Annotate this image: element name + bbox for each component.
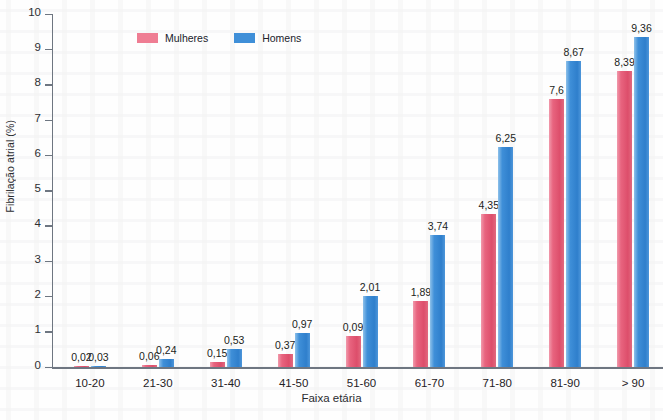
chart-legend: Mulheres Homens [137, 32, 301, 44]
y-axis-tick: 9 [45, 49, 52, 50]
bar-value-label: 0,53 [224, 334, 244, 346]
bar-homens[interactable]: 8,67 [566, 61, 581, 367]
y-axis-line [52, 14, 53, 368]
bar-homens[interactable]: 6,25 [498, 147, 513, 368]
bar-chart: Fibrilação atrial (%) Faixa etária 01234… [0, 0, 663, 420]
bar-value-label: 1,89 [411, 286, 431, 298]
bar-mulheres[interactable]: 0,09 [346, 336, 361, 368]
legend-label-mulheres: Mulheres [165, 32, 208, 44]
x-axis-tick-label: 51-60 [347, 377, 376, 389]
x-axis-tick-label: 31-40 [211, 377, 240, 389]
bar-group: 7,68,6781-90 [549, 14, 581, 367]
bar-group: 1,893,7461-70 [413, 14, 445, 367]
bar-group: 0,092,0151-60 [346, 14, 378, 367]
bar-mulheres[interactable]: 1,89 [413, 301, 428, 368]
bar-mulheres[interactable]: 0,02 [74, 366, 89, 367]
x-axis-tick-label: > 90 [622, 377, 645, 389]
y-axis-tick-label: 9 [35, 41, 41, 53]
bar-mulheres[interactable]: 0,06 [142, 365, 157, 367]
bar-mulheres[interactable]: 0,15 [210, 362, 225, 367]
y-axis-tick-label: 8 [35, 76, 41, 88]
y-axis-tick: 5 [45, 190, 52, 191]
x-axis-tick-label: 61-70 [415, 377, 444, 389]
bar-mulheres[interactable]: 4,35 [481, 214, 496, 368]
x-axis-tick-label: 71-80 [483, 377, 512, 389]
bar-value-label: 4,35 [479, 199, 499, 211]
y-axis-tick-label: 6 [35, 147, 41, 159]
y-axis-tick: 3 [45, 261, 52, 262]
legend-item-homens[interactable]: Homens [234, 32, 301, 44]
bar-value-label: 9,36 [631, 22, 651, 34]
bar-group: 0,060,2421-30 [142, 14, 174, 367]
bar-homens[interactable]: 2,01 [363, 296, 378, 367]
bar-homens[interactable]: 0,03 [91, 366, 106, 367]
bar-value-label: 0,09 [343, 321, 363, 333]
bar-group: 0,020,0310-20 [74, 14, 106, 367]
x-axis-tick-label: 21-30 [143, 377, 172, 389]
bar-homens[interactable]: 3,74 [430, 235, 445, 367]
y-axis-tick-label: 1 [35, 323, 41, 335]
y-axis-tick: 10 [45, 14, 52, 15]
bar-value-label: 6,25 [496, 132, 516, 144]
bar-value-label: 7,6 [549, 84, 564, 96]
bar-value-label: 0,03 [88, 351, 108, 363]
y-axis-tick: 6 [45, 155, 52, 156]
y-axis-tick: 7 [45, 120, 52, 121]
bar-homens[interactable]: 9,36 [634, 37, 649, 367]
legend-swatch-female-icon [137, 33, 158, 43]
plot-area: 012345678910 0,020,0310-200,060,2421-300… [52, 14, 663, 368]
bar-group: 0,370,9741-50 [278, 14, 310, 367]
legend-swatch-male-icon [234, 33, 255, 43]
bar-value-label: 0,24 [156, 344, 176, 356]
bar-value-label: 8,39 [614, 56, 634, 68]
y-axis-tick: 4 [45, 225, 52, 226]
x-axis-title: Faixa etária [0, 392, 663, 404]
x-axis-tick-label: 10-20 [75, 377, 104, 389]
bar-homens[interactable]: 0,24 [159, 359, 174, 367]
bar-mulheres[interactable]: 0,37 [278, 354, 293, 367]
y-axis-tick-label: 10 [28, 6, 41, 18]
bar-value-label: 0,37 [275, 339, 295, 351]
y-axis-title: Fibrilação atrial (%) [4, 120, 20, 213]
bar-value-label: 3,74 [428, 220, 448, 232]
y-axis-tick: 0 [45, 367, 52, 368]
y-axis-tick-label: 4 [35, 217, 41, 229]
bar-group: 8,399,36> 90 [617, 14, 649, 367]
y-axis-tick-label: 2 [35, 288, 41, 300]
y-axis-tick-label: 5 [35, 182, 41, 194]
bar-group: 0,150,5331-40 [210, 14, 242, 367]
bar-value-label: 2,01 [360, 281, 380, 293]
y-axis-tick: 2 [45, 296, 52, 297]
bar-value-label: 0,15 [207, 347, 227, 359]
y-axis-tick: 1 [45, 331, 52, 332]
bar-value-label: 0,97 [292, 318, 312, 330]
x-axis-tick-label: 41-50 [279, 377, 308, 389]
y-axis-tick-label: 0 [35, 359, 41, 371]
bar-homens[interactable]: 0,97 [295, 333, 310, 367]
y-axis-tick: 8 [45, 84, 52, 85]
bar-mulheres[interactable]: 8,39 [617, 71, 632, 367]
legend-item-mulheres[interactable]: Mulheres [137, 32, 208, 44]
bar-mulheres[interactable]: 7,6 [549, 99, 564, 367]
x-axis-tick-label: 81-90 [550, 377, 579, 389]
bar-value-label: 8,67 [563, 46, 583, 58]
bar-group: 4,356,2571-80 [481, 14, 513, 367]
bar-homens[interactable]: 0,53 [227, 349, 242, 368]
legend-label-homens: Homens [262, 32, 301, 44]
y-axis-tick-label: 7 [35, 112, 41, 124]
y-axis-tick-label: 3 [35, 253, 41, 265]
